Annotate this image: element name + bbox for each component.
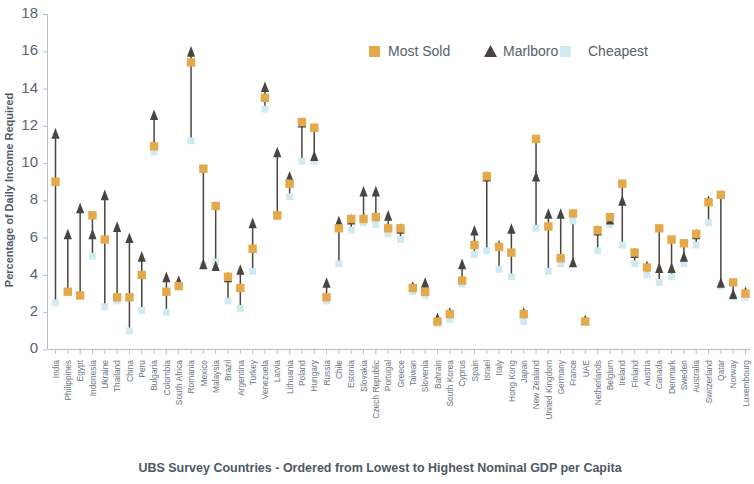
marker-marlboro [384,210,392,221]
marker-most-sold [729,278,737,286]
marker-most-sold [606,213,614,221]
country-datapoint-group [421,277,429,299]
country-datapoint-group [211,202,219,271]
marker-most-sold [692,230,700,238]
country-datapoint-group [507,223,515,280]
x-axis-tick-label: Spain [470,360,480,382]
marker-most-sold [285,179,293,187]
country-datapoint-group [581,314,589,325]
marker-most-sold [76,291,84,299]
country-datapoint-group [273,147,281,221]
x-axis-tick-label: Ireland [617,360,627,386]
x-axis-tick-marks [56,350,746,355]
marker-cheapest [348,227,355,234]
marker-most-sold [113,293,121,301]
marker-cheapest [372,221,379,228]
legend-marlboro-label: Marlboro [503,43,558,59]
marker-most-sold [470,241,478,249]
y-axis-tick-label: 14 [21,79,38,96]
x-axis-tick-label: Denmark [667,359,677,394]
x-axis-tick-label: Belgium [605,360,615,390]
marker-most-sold [483,172,491,180]
marker-cheapest [520,318,527,325]
x-axis-tick-label: Ukraine [100,360,110,389]
marker-marlboro [273,147,281,158]
marker-marlboro [322,277,330,288]
x-axis-tick-label: Italy [494,359,504,375]
marker-marlboro [125,232,133,243]
marker-cheapest [545,268,552,275]
country-datapoint-group [409,281,417,295]
marker-cheapest [496,266,503,273]
country-datapoint-group [224,272,232,305]
country-datapoint-group [150,109,158,155]
marker-most-sold [544,222,552,230]
marker-most-sold [581,317,589,325]
country-datapoint-group [741,287,749,301]
marker-marlboro [618,195,626,206]
marker-most-sold [273,211,281,219]
marker-cheapest [471,251,478,258]
marker-most-sold [433,317,441,325]
marker-marlboro [249,218,257,229]
marker-most-sold [347,215,355,223]
x-axis-tick-label: Israel [482,360,492,381]
country-datapoint-group [51,128,59,306]
marker-most-sold [64,288,72,296]
marker-most-sold [335,224,343,232]
x-axis-tick-label: Bahrain [433,360,443,389]
marker-marlboro [421,277,429,288]
y-axis-tick-label: 16 [21,41,38,58]
country-datapoint-group [359,186,367,226]
marker-cheapest [397,236,404,243]
marker-most-sold [396,224,404,232]
x-axis-tick-label: Colombia [162,360,172,396]
marker-most-sold [667,235,675,243]
marker-marlboro [138,251,146,262]
x-axis-tick-label: Malaysia [211,360,221,393]
marker-marlboro [236,264,244,275]
marker-most-sold [643,263,651,271]
marker-marlboro [76,203,84,214]
marker-cheapest [533,225,540,232]
country-datapoint-group [347,214,355,234]
country-datapoint-group [396,223,404,243]
x-axis-tick-label: Czech Republic [371,360,381,419]
marker-marlboro [680,251,688,262]
x-axis-tick-label: Poland [297,360,307,386]
x-axis-tick-label: Latvia [272,360,282,383]
y-axis-tick-label: 4 [30,265,38,282]
marker-most-sold [372,213,380,221]
marker-cheapest [163,309,170,316]
country-datapoint-group [458,259,466,288]
marker-marlboro [359,186,367,197]
marker-marlboro [729,288,737,299]
country-datapoint-group [483,171,491,254]
x-axis-tick-label: Russia [322,360,332,386]
marker-most-sold [310,123,318,131]
country-datapoint-group [322,277,330,304]
country-datapoint-group [248,218,256,275]
x-axis-tick-label: Argentina [236,360,246,396]
marker-marlboro [655,262,663,273]
country-datapoint-group [667,235,675,280]
y-axis-tick-label: 18 [21,4,38,21]
x-axis-tick-label: China [125,360,135,382]
x-axis-tick-label: Taiwan [408,360,418,386]
marker-cheapest [52,300,59,307]
marker-cheapest [594,247,601,254]
marker-most-sold [162,288,170,296]
x-axis-title-text: UBS Survey Countries - Ordered from Lowe… [138,461,622,475]
x-axis-tick-label: Slovakia [359,360,369,392]
marker-cheapest [483,247,490,254]
marker-marlboro [507,223,515,234]
marker-cheapest [89,253,96,260]
x-axis-tick-label: Netherlands [593,360,603,405]
country-datapoint-group [692,229,700,249]
legend-cheapest-label: Cheapest [588,43,648,59]
marker-most-sold [409,284,417,292]
marker-cheapest [225,298,232,305]
marker-marlboro [64,229,72,240]
marker-most-sold [248,245,256,253]
marker-most-sold [359,215,367,223]
